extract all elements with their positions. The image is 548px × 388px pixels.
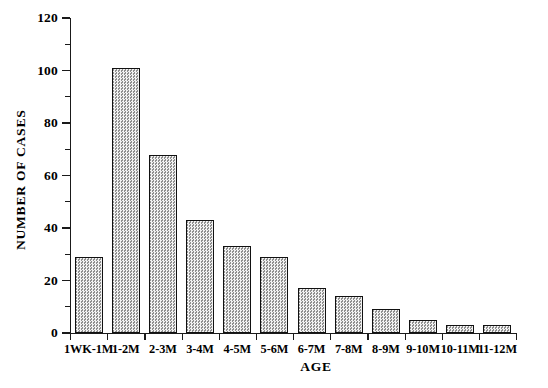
y-tick-minor xyxy=(65,254,70,255)
y-tick-minor xyxy=(65,306,70,307)
bar xyxy=(335,296,363,333)
x-tick xyxy=(442,333,443,340)
y-tick-label-wrap: 20 xyxy=(0,274,58,288)
x-tick xyxy=(144,333,145,340)
y-tick-label: 20 xyxy=(14,274,58,288)
y-tick-major xyxy=(62,175,70,176)
x-tick xyxy=(367,333,368,340)
y-tick-major xyxy=(62,122,70,123)
bar xyxy=(298,288,326,333)
x-tick xyxy=(405,333,406,340)
y-tick-label-wrap: 80 xyxy=(0,116,58,130)
y-tick-label-wrap: 60 xyxy=(0,169,58,183)
y-tick-major xyxy=(62,70,70,71)
x-tick xyxy=(516,333,517,340)
y-tick-minor xyxy=(65,96,70,97)
x-tick xyxy=(256,333,257,340)
y-tick-minor xyxy=(65,201,70,202)
bar xyxy=(149,155,177,334)
y-tick-label-wrap: 40 xyxy=(0,221,58,235)
y-tick-label: 120 xyxy=(14,11,58,25)
bar xyxy=(75,257,103,333)
y-tick-label-wrap: 0 xyxy=(0,326,58,340)
bar xyxy=(483,325,511,333)
y-tick-minor xyxy=(65,149,70,150)
bar xyxy=(112,68,140,333)
y-tick-label-wrap: 100 xyxy=(0,64,58,78)
y-axis-line xyxy=(70,18,71,334)
bar xyxy=(260,257,288,333)
x-tick xyxy=(330,333,331,340)
x-category-label: 11-12M xyxy=(457,343,537,355)
y-tick-label-wrap: 120 xyxy=(0,11,58,25)
y-tick-label: 100 xyxy=(14,64,58,78)
y-tick-label: 0 xyxy=(14,326,58,340)
x-tick xyxy=(219,333,220,340)
x-tick xyxy=(479,333,480,340)
bar xyxy=(446,325,474,333)
y-tick-major xyxy=(62,227,70,228)
bar xyxy=(186,220,214,333)
bar xyxy=(372,309,400,333)
y-tick-major xyxy=(62,17,70,18)
y-tick-major xyxy=(62,280,70,281)
y-tick-minor xyxy=(65,44,70,45)
bar-chart: 020406080100120 1WK-1M1-2M2-3M3-4M4-5M5-… xyxy=(0,0,548,388)
x-axis-title: AGE xyxy=(276,360,356,374)
x-tick xyxy=(70,333,71,340)
bar xyxy=(409,320,437,333)
x-tick xyxy=(182,333,183,340)
x-tick xyxy=(107,333,108,340)
y-tick-major xyxy=(62,332,70,333)
bar xyxy=(223,246,251,333)
y-axis-title: NUMBER OF CASES xyxy=(14,85,28,275)
x-tick xyxy=(293,333,294,340)
